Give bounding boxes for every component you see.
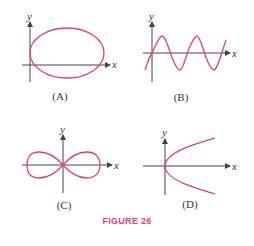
- panel-label-d: (D): [182, 198, 198, 211]
- ellipse-curve: [30, 28, 104, 78]
- y-axis-label: y: [26, 10, 32, 22]
- y-axis-label: y: [59, 123, 65, 135]
- figure-title: FIGURE 26: [102, 216, 151, 226]
- figure-26: y x (A) y x (B) y x (C) y x (D) FIGURE 2…: [0, 0, 254, 246]
- panel-label-c: (C): [57, 199, 72, 212]
- origin-dot: [62, 164, 65, 167]
- y-axis-label: y: [161, 126, 167, 138]
- panel-b: y x (B): [143, 10, 237, 104]
- x-axis-label: x: [113, 159, 119, 171]
- panel-c: y x (C): [22, 123, 119, 212]
- panel-a: y x (A): [22, 10, 117, 103]
- panel-label-b: (B): [174, 91, 189, 104]
- panel-d: y x (D): [143, 126, 237, 211]
- y-axis-label: y: [148, 10, 154, 22]
- panel-label-a: (A): [52, 90, 68, 103]
- x-axis-label: x: [231, 160, 237, 172]
- x-axis-label: x: [111, 58, 117, 70]
- x-axis-label: x: [231, 47, 237, 59]
